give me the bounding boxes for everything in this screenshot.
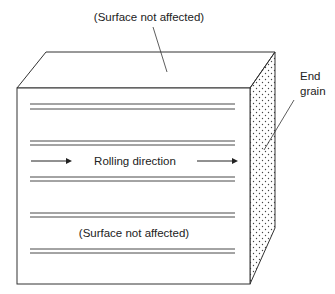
- rolling-direction-label: Rolling direction: [94, 155, 176, 167]
- top-face: [17, 52, 275, 88]
- top-surface-label: (Surface not affected): [94, 11, 205, 23]
- front-surface-label: (Surface not affected): [79, 227, 190, 239]
- rolled-plate-diagram: Rolling direction (Surface not affected)…: [0, 0, 335, 294]
- front-face: [17, 88, 250, 284]
- end-grain-face: [250, 52, 275, 284]
- end-grain-label-line1: End: [300, 70, 320, 82]
- end-grain-label-line2: grain: [300, 85, 326, 97]
